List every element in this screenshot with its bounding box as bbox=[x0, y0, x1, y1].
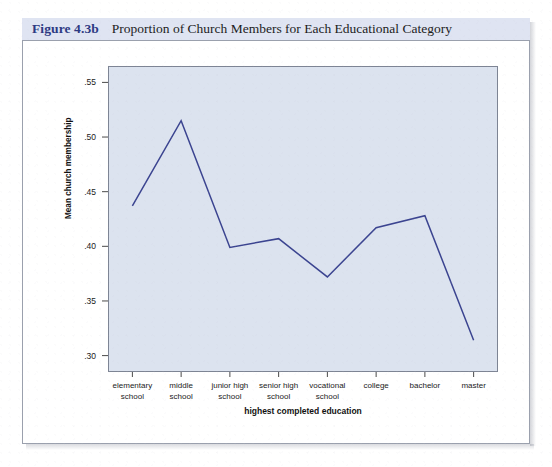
y-axis-tick-label: .45 bbox=[70, 187, 96, 197]
page-edge-shadow-bottom bbox=[26, 444, 534, 450]
y-axis-tick-label: .55 bbox=[70, 77, 96, 87]
figure-page: Figure 4.3b Proportion of Church Members… bbox=[0, 0, 552, 467]
figure-caption-text: Proportion of Church Members for Each Ed… bbox=[112, 21, 452, 37]
y-axis-tick-label: .40 bbox=[70, 241, 96, 251]
y-axis-tick-label: .35 bbox=[70, 296, 96, 306]
figure-number-label: Figure 4.3b bbox=[32, 21, 99, 37]
figure-caption-bar: Figure 4.3b Proportion of Church Members… bbox=[22, 18, 530, 40]
y-axis-tick-label: .30 bbox=[70, 351, 96, 361]
x-axis-title: highest completed education bbox=[244, 406, 362, 416]
page-edge-shadow-right bbox=[530, 22, 536, 446]
x-axis-tick-label: master bbox=[442, 381, 506, 392]
y-axis-tick-label: .50 bbox=[70, 132, 96, 142]
chart-plot-area bbox=[108, 66, 498, 372]
